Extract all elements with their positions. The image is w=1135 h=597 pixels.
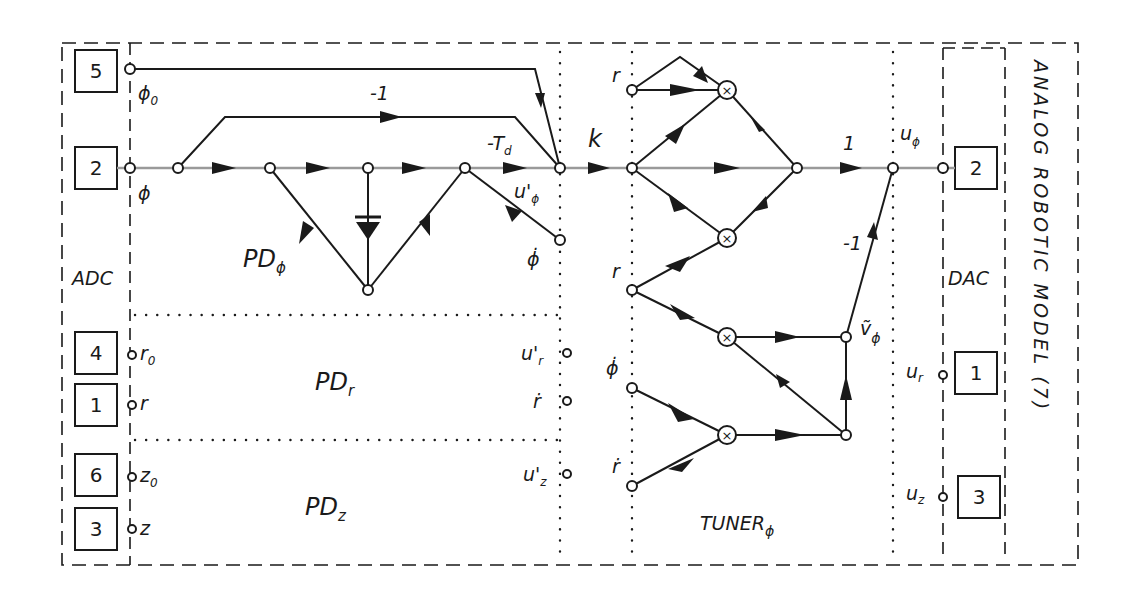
title-analog-robotic-model: ANALOG ROBOTIC MODEL (7) — [1030, 58, 1052, 412]
label-pd-phi: PDϕ — [243, 245, 286, 277]
adc-port-4-label: 4 — [90, 341, 103, 365]
multiplier-2: × — [718, 229, 736, 247]
label-tuner-phi-dot: ϕ̇ — [606, 356, 619, 379]
gain-one: 1 — [843, 132, 855, 154]
label-tuner: TUNERϕ — [700, 512, 774, 539]
label-tuner-r-top: r — [612, 64, 621, 86]
adc-port-2-label: 2 — [90, 156, 103, 180]
section-dividers — [135, 52, 893, 560]
multiplier-3: × — [718, 328, 736, 346]
adc-port-5-label: 5 — [90, 59, 103, 83]
multiplier-1: × — [718, 81, 736, 99]
adc-port-numbers: 5 2 4 1 6 3 — [90, 59, 103, 541]
gain-minus-one: -1 — [370, 82, 389, 104]
label-phi0: ϕ0 — [138, 82, 159, 108]
label-pd-r: PDr — [315, 368, 355, 400]
svg-text:×: × — [722, 330, 733, 345]
svg-text:×: × — [722, 231, 733, 246]
label-z0: z0 — [139, 464, 158, 490]
gain-neg-td: -Td — [487, 132, 512, 158]
label-phi-dot: ϕ̇ — [527, 247, 540, 270]
label-u-z: uz — [906, 482, 925, 507]
label-dac: DAC — [948, 267, 990, 289]
label-r-dot: ṙ — [533, 390, 542, 412]
boundaries — [62, 43, 1078, 565]
label-tuner-r-mid: r — [612, 260, 621, 282]
dac-port-1-label: 1 — [970, 361, 983, 385]
label-r: r — [140, 392, 149, 414]
label-u-phi-prime: u'ϕ — [514, 180, 539, 206]
label-pd-z: PDz — [305, 493, 347, 525]
label-u-r-prime: u'r — [521, 342, 544, 368]
dac-port-2-label: 2 — [970, 156, 983, 180]
label-u-phi: uϕ — [900, 122, 920, 149]
dac-port-numbers: 2 1 3 — [970, 156, 986, 509]
gain-k: k — [588, 125, 603, 153]
label-v-tilde-phi: ṽϕ — [860, 317, 881, 346]
gain-tuner-minus-one: -1 — [843, 232, 862, 254]
label-tuner-r-dot: ṙ — [612, 455, 621, 477]
label-u-z-prime: u'z — [523, 463, 547, 489]
adc-port-6-label: 6 — [90, 463, 103, 487]
svg-text:×: × — [722, 83, 733, 98]
adc-port-1-label: 1 — [90, 393, 103, 417]
label-u-r: ur — [906, 360, 924, 385]
multipliers: × × × × — [718, 81, 736, 444]
dac-port-3-label: 3 — [973, 485, 986, 509]
label-adc: ADC — [70, 267, 114, 289]
signal-flow-diagram: 5 2 4 1 6 3 2 1 3 — [0, 0, 1135, 597]
label-z: z — [139, 517, 151, 539]
adc-port-3-label: 3 — [90, 517, 103, 541]
outer-frame — [62, 43, 1078, 565]
multiplier-4: × — [718, 426, 736, 444]
dac-ports — [955, 147, 1000, 518]
label-phi: ϕ — [138, 182, 151, 204]
label-r0: r0 — [140, 342, 156, 368]
svg-text:×: × — [722, 428, 733, 443]
